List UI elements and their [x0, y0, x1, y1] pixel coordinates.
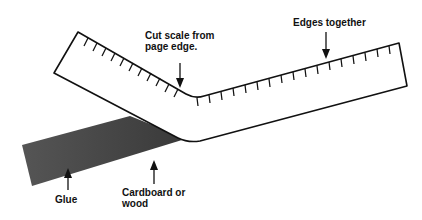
label-edges-together: Edges together: [293, 17, 366, 28]
label-cardboard-line2: wood: [122, 198, 185, 209]
label-glue: Glue: [55, 194, 77, 205]
arrow-cardboard: [150, 160, 158, 184]
arrow-cut-scale: [176, 63, 184, 88]
label-cut-scale: Cut scale from page edge.: [145, 30, 214, 52]
diagram-canvas: Cut scale from page edge. Edges together…: [0, 0, 422, 220]
label-cut-scale-line2: page edge.: [145, 41, 214, 52]
label-cardboard-line1: Cardboard or: [122, 187, 185, 198]
arrow-edges-together: [322, 32, 330, 59]
label-cardboard: Cardboard or wood: [122, 187, 185, 209]
label-cut-scale-line1: Cut scale from: [145, 30, 214, 41]
